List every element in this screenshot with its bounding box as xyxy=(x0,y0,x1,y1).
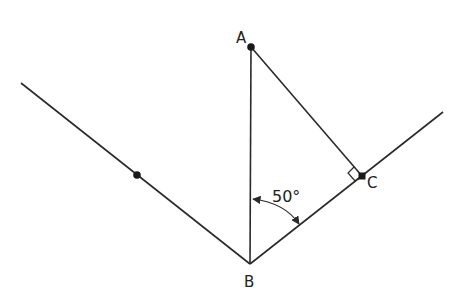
segment-ac xyxy=(251,47,362,176)
label-a: A xyxy=(236,29,247,47)
diagram-canvas: A B C 50° xyxy=(0,0,469,298)
label-b: B xyxy=(244,273,254,291)
label-c: C xyxy=(367,174,377,192)
angle-label: 50° xyxy=(272,187,300,206)
point-c-dot xyxy=(359,173,366,180)
geometry-figure: A B C 50° xyxy=(0,0,469,298)
point-a-dot xyxy=(247,43,255,51)
point-d-dot xyxy=(133,171,141,179)
segment-ab xyxy=(250,47,251,264)
